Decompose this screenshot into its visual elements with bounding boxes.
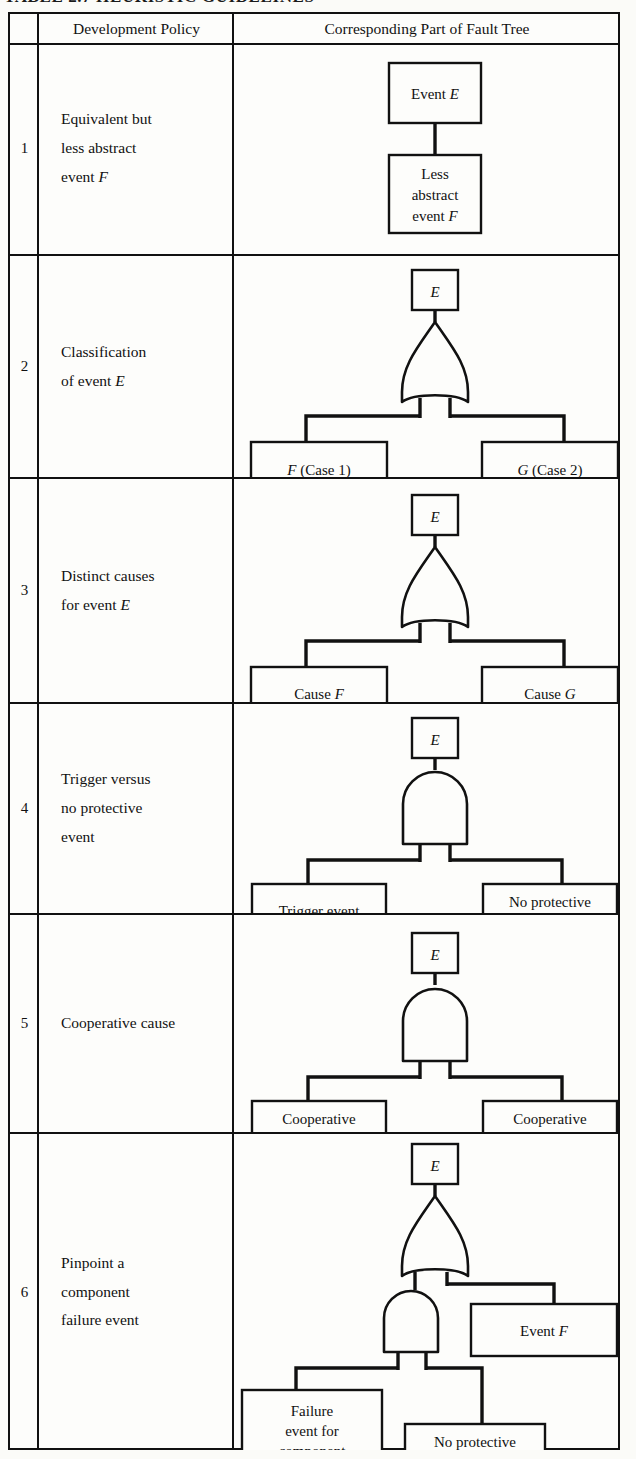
or-gate: [402, 322, 468, 402]
leaf-box-failure-component: [242, 1390, 382, 1450]
or-gate: [402, 1196, 468, 1276]
row-policy-2: Classification of event E: [39, 256, 234, 477]
row-number-5: 5: [10, 915, 39, 1132]
event-f-box-label: Event F: [520, 1323, 569, 1339]
row-tree-3: E Cause F Cause G: [234, 479, 620, 702]
fault-tree-diagram-4: E Trigger event No protective event: [234, 704, 620, 913]
and-gate-output-legs: [398, 1352, 426, 1370]
fault-tree-diagram-3: E Cause F Cause G: [234, 479, 620, 702]
policy-line: event F: [61, 163, 152, 192]
row-number-4: 4: [10, 704, 39, 913]
fault-tree-diagram-1: Event E Less abstract event F: [234, 43, 620, 254]
and-gate: [403, 989, 467, 1061]
leaf-box-left-label: Trigger event: [279, 903, 361, 913]
policy-line: Distinct causes: [61, 562, 154, 591]
header-cell-number: [10, 14, 39, 44]
policy-line: Classification: [61, 338, 146, 367]
leaf-box-failure-label-1: Failure: [291, 1403, 334, 1419]
policy-line: Cooperative cause: [61, 1009, 175, 1038]
leaf-box-right-label-1: Cooperative: [513, 1111, 587, 1127]
policy-line: Equivalent but: [61, 105, 152, 134]
fault-tree-diagram-5: E Cooperative cause F Cooperative cause …: [234, 915, 620, 1132]
and-gate: [384, 1291, 438, 1352]
policy-line: of event E: [61, 367, 146, 396]
row-tree-5: E Cooperative cause F Cooperative cause …: [234, 915, 620, 1132]
row-policy-3: Distinct causes for event E: [39, 479, 234, 702]
leaf-box-left-label: Cause F: [294, 686, 344, 702]
event-box-top-label: E: [429, 1158, 439, 1174]
row-tree-2: E F (Case 1) G (Case 2): [234, 256, 620, 477]
leaf-box-failure-label-3: component: [279, 1443, 346, 1450]
connector-or-to-event-f: [447, 1284, 554, 1306]
table-caption-text: TABLE 2.7 HEURISTIC GUIDELINES: [4, 0, 315, 7]
policy-line: no protective: [61, 794, 150, 823]
row-number-6: 6: [10, 1134, 39, 1450]
fault-tree-diagram-6: E Event F Failure event for component No…: [234, 1134, 620, 1450]
header-cell-fault-tree: Corresponding Part of Fault Tree: [234, 14, 620, 44]
gate-output-legs: [420, 844, 450, 862]
connector-bus-right: [450, 641, 564, 669]
row-policy-5: Cooperative cause: [39, 915, 234, 1132]
or-gate-output-legs: [415, 1272, 447, 1290]
leaf-box-right-label: G (Case 2): [518, 462, 583, 477]
row-tree-4: E Trigger event No protective event: [234, 704, 620, 913]
event-box-top-label: Event E: [411, 86, 459, 102]
event-box-child-label-3: event F: [412, 208, 458, 224]
row-number-2: 2: [10, 256, 39, 477]
header-cell-development-policy: Development Policy: [39, 14, 234, 44]
or-gate: [402, 547, 468, 627]
connector-bus-right: [450, 1077, 562, 1103]
policy-line: for event E: [61, 591, 154, 620]
leaf-box-no-protective-label-1: No protective: [434, 1434, 516, 1450]
policy-line: component: [61, 1278, 139, 1307]
connector-bus-and-right: [426, 1368, 482, 1426]
and-gate: [403, 772, 467, 844]
row-tree-6: E Event F Failure event for component No…: [234, 1134, 620, 1450]
policy-line: less abstract: [61, 134, 152, 163]
policy-line: failure event: [61, 1306, 139, 1335]
connector-bus-right: [450, 416, 564, 444]
event-box-top-label: E: [429, 732, 439, 748]
connector-bus-left: [308, 1077, 420, 1103]
event-box-top-label: E: [429, 509, 439, 525]
row-tree-1: Event E Less abstract event F: [234, 43, 620, 254]
leaf-box-right-label-1: No protective: [509, 894, 591, 910]
connector-bus-left: [306, 641, 420, 669]
event-box-top-label: E: [429, 947, 439, 963]
table-caption-clipped: TABLE 2.7 HEURISTIC GUIDELINES: [0, 0, 636, 11]
leaf-box-right-label: Cause G: [524, 686, 575, 702]
gate-output-legs: [420, 623, 450, 643]
row-policy-4: Trigger versus no protective event: [39, 704, 234, 913]
connector-bus-and-left: [296, 1368, 398, 1392]
event-box-top-label: E: [429, 284, 439, 300]
policy-line: event: [61, 823, 150, 852]
leaf-box-failure-label-2: event for: [285, 1423, 339, 1439]
connector-bus-left: [306, 416, 420, 444]
policy-line: Trigger versus: [61, 765, 150, 794]
leaf-box-left-label-1: Cooperative: [282, 1111, 356, 1127]
connector-bus-right: [450, 860, 562, 886]
policy-line: Pinpoint a: [61, 1249, 139, 1278]
fault-tree-diagram-2: E F (Case 1) G (Case 2): [234, 256, 620, 477]
gate-output-legs: [420, 398, 450, 418]
gate-output-legs: [420, 1061, 450, 1079]
event-box-child-label-1: Less: [421, 166, 449, 182]
leaf-box-left-label: F (Case 1): [286, 462, 350, 477]
row-number-3: 3: [10, 479, 39, 702]
row-policy-6: Pinpoint a component failure event: [39, 1134, 234, 1450]
row-number-1: 1: [10, 43, 39, 254]
row-policy-1: Equivalent but less abstract event F: [39, 43, 234, 254]
connector-bus-left: [308, 860, 420, 886]
heuristic-guidelines-table: Development Policy Corresponding Part of…: [8, 12, 620, 1450]
event-box-child-label-2: abstract: [412, 187, 459, 203]
